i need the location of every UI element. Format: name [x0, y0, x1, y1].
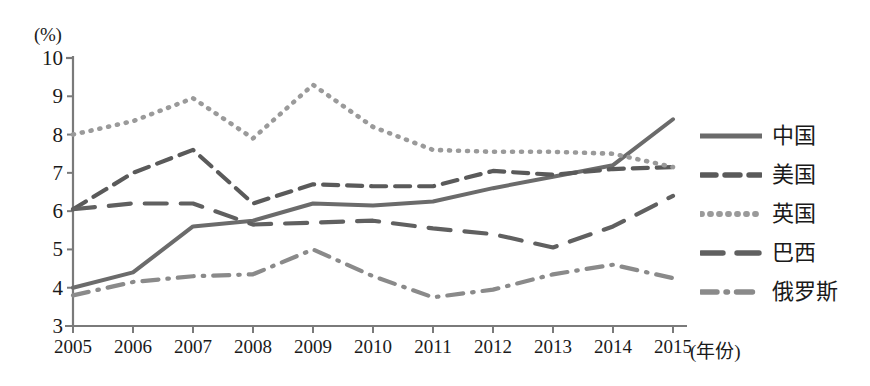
legend-line-swatch: [700, 129, 762, 143]
y-tick-label: 3: [53, 314, 64, 339]
y-tick-label: 4: [53, 275, 64, 300]
legend-label: 英国: [772, 203, 816, 225]
y-tick-label: 7: [53, 160, 64, 185]
series-line: [73, 85, 673, 167]
legend-item[interactable]: 英国: [700, 194, 865, 233]
legend-line-swatch: [700, 285, 762, 299]
legend-label: 巴西: [772, 242, 816, 264]
x-tick-label: 2013: [534, 336, 572, 358]
line-chart: (%) 109876543 20052006200720082009201020…: [0, 0, 870, 386]
x-tick-label: 2014: [594, 336, 632, 358]
legend-label: 中国: [772, 125, 816, 147]
y-axis-unit-label: (%): [34, 24, 62, 46]
y-tick-label: 8: [53, 122, 64, 147]
x-tick-label: 2010: [354, 336, 392, 358]
y-tick-label: 6: [53, 199, 64, 224]
y-tick-label: 5: [53, 237, 64, 262]
series-line: [73, 249, 673, 297]
legend-item[interactable]: 巴西: [700, 233, 865, 272]
chart-legend: 中国美国英国巴西俄罗斯: [700, 116, 865, 311]
legend-line-swatch: [700, 207, 762, 221]
y-tick-label: 10: [42, 46, 63, 71]
legend-item[interactable]: 美国: [700, 155, 865, 194]
y-tick-label: 9: [53, 84, 64, 109]
legend-label: 俄罗斯: [772, 281, 838, 303]
x-tick-label: 2007: [174, 336, 212, 358]
data-series: [73, 85, 673, 297]
legend-line-swatch: [700, 246, 762, 260]
axis-lines: [65, 56, 687, 326]
legend-line-swatch: [700, 168, 762, 182]
x-tick-label: 2011: [414, 336, 451, 358]
legend-item[interactable]: 俄罗斯: [700, 272, 865, 311]
legend-item[interactable]: 中国: [700, 116, 865, 155]
axis-ticks: [67, 58, 673, 333]
x-tick-label: 2008: [234, 336, 272, 358]
series-line: [73, 150, 673, 209]
x-axis-unit-label: (年份): [690, 336, 741, 363]
x-tick-label: 2012: [474, 336, 512, 358]
x-tick-label: 2009: [294, 336, 332, 358]
x-tick-label: 2005: [54, 336, 92, 358]
x-tick-label: 2006: [114, 336, 152, 358]
x-tick-label: 2015: [654, 336, 692, 358]
legend-label: 美国: [772, 164, 816, 186]
